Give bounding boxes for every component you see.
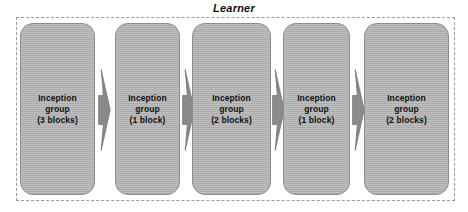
inception-group-block-1[interactable]: Inception group (3 blocks) bbox=[20, 23, 95, 195]
inception-group-block-4[interactable]: Inception group (1 block) bbox=[283, 23, 350, 195]
inception-group-block-3[interactable]: Inception group (2 blocks) bbox=[192, 23, 271, 195]
inception-pipeline: Inception group (3 blocks) Inception gro… bbox=[16, 17, 455, 201]
inception-group-block-5[interactable]: Inception group (2 blocks) bbox=[364, 23, 449, 195]
inception-group-block-2-label: Inception group (1 block) bbox=[126, 93, 169, 126]
inception-group-block-5-label: Inception group (2 blocks) bbox=[384, 93, 429, 126]
diagram-title: Learner bbox=[0, 1, 468, 15]
learner-diagram-figure: Learner Inception group (3 blocks) Incep… bbox=[0, 0, 468, 212]
inception-group-block-4-label: Inception group (1 block) bbox=[295, 93, 338, 126]
inception-group-block-1-label: Inception group (3 blocks) bbox=[35, 93, 80, 126]
flow-arrow-right-icon-1 bbox=[98, 69, 111, 151]
inception-group-block-2[interactable]: Inception group (1 block) bbox=[115, 23, 180, 195]
inception-group-block-3-label: Inception group (2 blocks) bbox=[209, 93, 254, 126]
